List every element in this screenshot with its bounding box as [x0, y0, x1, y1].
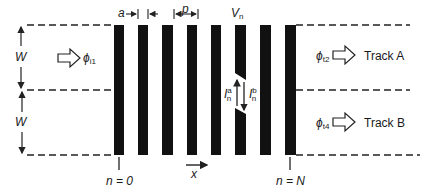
electrode-bar-broken-bottom: [235, 108, 246, 155]
current-a-label: Ian: [224, 86, 232, 103]
a-label: a: [118, 6, 125, 20]
electrode-bar-broken-top: [235, 25, 246, 80]
current-b-label: Ibn: [249, 86, 257, 103]
electrode-bar: [285, 25, 296, 155]
x-axis-label: x: [190, 167, 198, 181]
track-b-label: Track B: [364, 116, 405, 130]
w-bottom-label: W: [15, 115, 28, 129]
output-flux-a-arrow-icon: [333, 46, 355, 64]
current-arrows: [237, 80, 244, 110]
phi-in-label: ϕi1: [83, 51, 96, 66]
electrode-bars: [114, 25, 296, 155]
index-ticks: [119, 157, 290, 170]
a-dimension-arrows: [126, 9, 158, 19]
w-top-label: W: [15, 50, 28, 64]
electrode-bar: [211, 25, 221, 155]
track-a-label: Track A: [364, 49, 404, 63]
input-flux-arrow-icon: [58, 49, 80, 67]
p-label: p: [181, 2, 189, 16]
electrode-diagram: W W ϕi1 a p Vn Ian Ibn ϕt2 Track A ϕt4 T…: [0, 0, 436, 194]
output-flux-b-arrow-icon: [333, 113, 355, 131]
electrode-bar: [138, 25, 148, 155]
electrode-bar: [187, 25, 197, 155]
width-dimension-arrows: [21, 27, 22, 153]
n-end-label: n = N: [276, 174, 305, 188]
electrode-bar: [260, 25, 271, 155]
phi-out-a-label: ϕt2: [316, 49, 330, 64]
n-start-label: n = 0: [106, 174, 133, 188]
electrode-bar: [114, 25, 124, 155]
phi-out-b-label: ϕt4: [316, 116, 330, 131]
vn-label: Vn: [231, 6, 243, 21]
electrode-bar: [162, 25, 173, 155]
